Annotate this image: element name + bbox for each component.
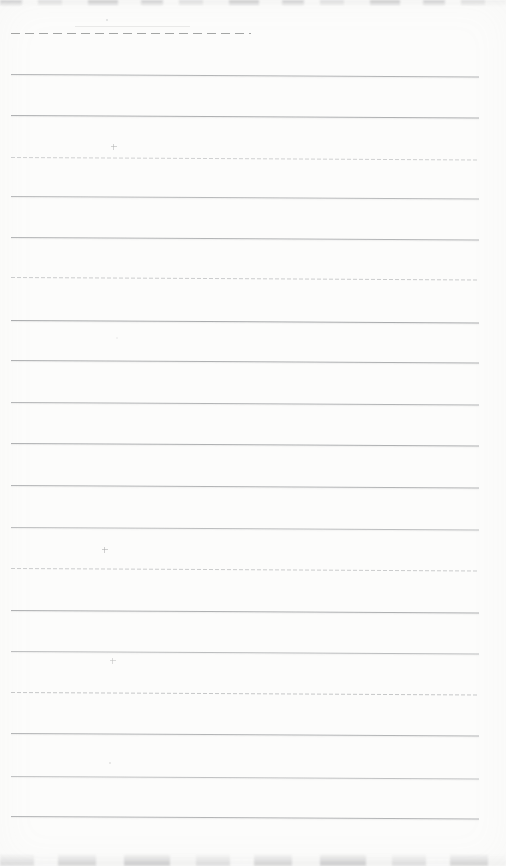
ruled-line — [11, 776, 479, 779]
notebook-page — [0, 0, 506, 866]
ruled-line — [11, 651, 479, 654]
paper-speck — [106, 19, 108, 21]
paper-speck — [110, 658, 116, 664]
top-edge-scan-texture — [0, 0, 506, 7]
ruled-line — [11, 237, 479, 240]
ruled-line — [11, 360, 479, 363]
paper-speck — [111, 144, 117, 150]
paper-speck — [116, 337, 118, 339]
faint-header-streak — [75, 26, 190, 27]
ruled-line — [11, 74, 479, 77]
bottom-edge-scan-texture — [0, 853, 506, 866]
paper-speck — [109, 762, 111, 764]
ruled-line — [11, 443, 479, 446]
ruled-line — [11, 692, 479, 695]
ruled-line — [11, 816, 479, 819]
ruled-line — [11, 610, 479, 613]
ruled-line — [11, 115, 479, 118]
ruled-line — [11, 485, 479, 488]
ruled-line — [11, 277, 479, 280]
ruled-line — [11, 527, 479, 530]
ruled-line — [11, 402, 479, 405]
dashed-header-rule — [11, 33, 251, 34]
ruled-line — [11, 733, 479, 736]
ruled-line — [11, 196, 479, 199]
ruled-line — [11, 157, 479, 160]
paper-speck — [102, 547, 108, 553]
ruled-line — [11, 568, 479, 571]
ruled-line — [11, 320, 479, 323]
